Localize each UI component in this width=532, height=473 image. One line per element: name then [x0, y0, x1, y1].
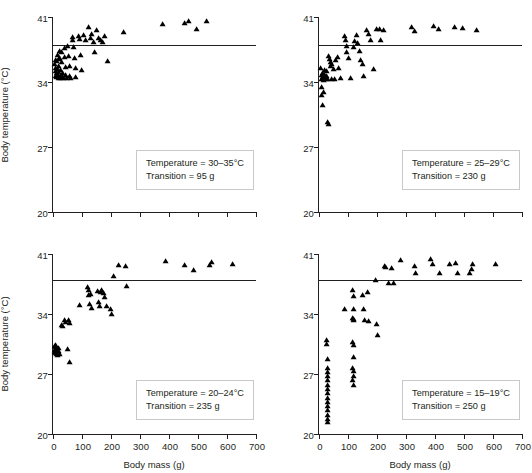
y-axis-title-p1: Body temperature (°C) — [0, 67, 10, 162]
data-point — [321, 89, 327, 94]
data-point — [397, 257, 403, 262]
x-tick-label-700: 700 — [515, 441, 531, 452]
data-point — [342, 37, 348, 42]
y-tick-label-41: 41 — [303, 250, 314, 261]
data-point — [203, 19, 209, 24]
data-point — [59, 324, 65, 329]
data-point — [351, 382, 357, 387]
data-point — [93, 27, 99, 32]
data-point — [70, 45, 76, 50]
data-point — [102, 33, 108, 38]
y-tick-label-41: 41 — [37, 250, 48, 261]
data-point — [89, 305, 95, 310]
data-point — [356, 48, 362, 53]
x-tick-600 — [227, 212, 228, 217]
data-point — [446, 261, 452, 266]
x-tick-300: 300 — [406, 434, 407, 439]
data-point — [355, 40, 361, 45]
data-point — [361, 73, 367, 78]
x-tick-300: 300 — [140, 434, 141, 439]
y-tick-label-27: 27 — [37, 370, 48, 381]
data-point — [325, 121, 331, 126]
panel-top-left: Body temperature (°C) 20273441Temperatur… — [0, 0, 266, 236]
x-tick-label-500: 500 — [191, 441, 207, 452]
data-point — [341, 306, 347, 311]
x-tick-label-600: 600 — [220, 441, 236, 452]
y-tick-27: 27 — [314, 374, 319, 375]
x-tick-400 — [435, 212, 436, 217]
x-tick-label-300: 300 — [399, 441, 415, 452]
x-tick-200: 200 — [377, 434, 378, 439]
x-tick-label-100: 100 — [75, 441, 91, 452]
data-point — [474, 27, 480, 32]
data-point — [346, 55, 352, 60]
data-point — [365, 318, 371, 323]
data-point — [381, 27, 387, 32]
plot-area-p2: 20273441Temperature = 25–29°CTransition … — [318, 17, 522, 213]
data-point — [97, 303, 103, 308]
data-point — [336, 65, 342, 70]
x-tick-100 — [82, 212, 83, 217]
data-point — [334, 54, 340, 59]
data-point — [411, 264, 417, 269]
y-tick-label-20: 20 — [37, 430, 48, 441]
data-point — [77, 52, 83, 57]
data-point — [452, 260, 458, 265]
annotation-temperature: Temperature = 30–35°C — [146, 157, 244, 170]
x-axis-title-p4: Body mass (g) — [389, 459, 450, 470]
data-point — [124, 283, 130, 288]
data-point — [493, 261, 499, 266]
data-point — [229, 261, 235, 266]
x-tick-100: 100 — [348, 434, 349, 439]
x-axis-title-p3: Body mass (g) — [123, 459, 184, 470]
x-tick-200 — [377, 212, 378, 217]
x-tick-label-700: 700 — [249, 441, 265, 452]
x-tick-label-0: 0 — [51, 441, 56, 452]
y-tick-label-34: 34 — [37, 310, 48, 321]
x-tick-500: 500 — [198, 434, 199, 439]
figure-root: Body temperature (°C) 20273441Temperatur… — [0, 0, 532, 473]
data-point — [324, 356, 330, 361]
data-point — [411, 28, 417, 33]
x-tick-500 — [464, 212, 465, 217]
data-point — [350, 288, 356, 293]
y-tick-41: 41 — [48, 254, 53, 255]
x-tick-500: 500 — [464, 434, 465, 439]
data-point — [76, 302, 82, 307]
data-point — [105, 59, 111, 64]
data-point — [343, 43, 349, 48]
data-point — [163, 258, 169, 263]
y-tick-label-41: 41 — [37, 13, 48, 24]
y-tick-label-27: 27 — [37, 143, 48, 154]
panel-bottom-right: 202734410100200300400500600700Temperatur… — [266, 237, 532, 473]
data-point — [389, 265, 395, 270]
annotation-transition: Transition = 95 g — [146, 170, 244, 183]
data-point — [122, 263, 128, 268]
x-tick-300 — [406, 212, 407, 217]
y-tick-label-34: 34 — [303, 78, 314, 89]
data-point — [182, 262, 188, 267]
data-point — [319, 102, 325, 107]
x-tick-0: 0 — [53, 434, 54, 439]
data-point — [73, 74, 79, 79]
y-tick-41: 41 — [314, 17, 319, 18]
data-point — [109, 311, 115, 316]
y-tick-41: 41 — [48, 17, 53, 18]
annotation-box: Temperature = 30–35°CTransition = 95 g — [136, 150, 254, 190]
data-point — [436, 26, 442, 31]
annotation-box: Temperature = 15–19°CTransition = 250 g — [402, 380, 520, 420]
y-tick-34: 34 — [314, 82, 319, 83]
data-point — [337, 75, 343, 80]
data-point — [347, 75, 353, 80]
y-tick-label-20: 20 — [37, 208, 48, 219]
data-point — [350, 354, 356, 359]
data-point — [390, 280, 396, 285]
reference-line — [53, 280, 256, 281]
annotation-transition: Transition = 230 g — [412, 170, 510, 183]
y-tick-27: 27 — [314, 147, 319, 148]
x-tick-500 — [198, 212, 199, 217]
x-tick-700: 700 — [256, 434, 257, 439]
x-tick-0 — [53, 212, 54, 217]
x-tick-label-100: 100 — [341, 441, 357, 452]
y-tick-34: 34 — [48, 314, 53, 315]
